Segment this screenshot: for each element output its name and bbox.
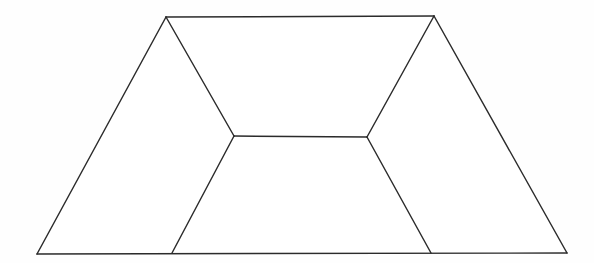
- figure-canvas: [0, 0, 594, 263]
- top-edge: [166, 16, 434, 17]
- center-horizontal-edge: [234, 136, 367, 137]
- bottom-edge: [37, 253, 567, 254]
- line-drawing-svg: [0, 0, 594, 263]
- faces-group: [37, 16, 567, 254]
